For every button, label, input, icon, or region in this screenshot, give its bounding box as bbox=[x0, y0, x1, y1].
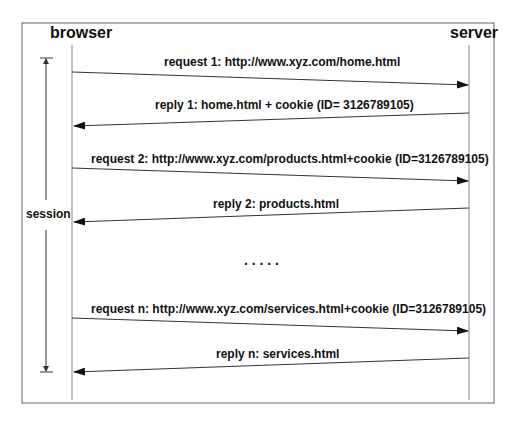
arrow-request-n bbox=[72, 318, 468, 331]
message-label-reply-n: reply n: services.html bbox=[216, 347, 339, 361]
message-label-request-1: request 1: http://www.xyz.com/home.html bbox=[164, 55, 400, 69]
diagram-frame bbox=[22, 23, 494, 403]
message-label-request-2: request 2: http://www.xyz.com/products.h… bbox=[91, 152, 489, 166]
sequence-diagram: browser server session request 1: http:/… bbox=[0, 0, 519, 425]
message-label-reply-2: reply 2: products.html bbox=[213, 197, 339, 211]
browser-actor-label: browser bbox=[50, 24, 112, 42]
session-label: session bbox=[26, 207, 71, 221]
message-label-request-n: request n: http://www.xyz.com/services.h… bbox=[91, 302, 486, 316]
arrow-request-1 bbox=[72, 72, 468, 85]
server-actor-label: server bbox=[450, 24, 498, 42]
arrow-request-2 bbox=[72, 168, 468, 181]
arrow-reply-1 bbox=[74, 113, 469, 126]
message-label-reply-1: reply 1: home.html + cookie (ID= 3126789… bbox=[155, 98, 414, 112]
ellipsis: . . . . . bbox=[244, 252, 279, 268]
